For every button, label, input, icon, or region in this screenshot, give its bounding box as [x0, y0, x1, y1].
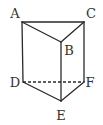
edge-de — [23, 82, 61, 101]
vertex-label-e: E — [56, 108, 66, 123]
triangular-prism-diagram: A B C D E F — [0, 0, 103, 125]
vertex-label-c: C — [86, 6, 96, 21]
vertex-label-d: D — [10, 75, 20, 90]
edge-ad — [22, 22, 23, 82]
vertex-label-a: A — [9, 6, 20, 21]
edge-ef — [61, 82, 84, 101]
edge-ab — [22, 22, 61, 42]
edge-bc — [61, 22, 84, 42]
vertex-label-f: F — [85, 75, 94, 90]
vertex-label-b: B — [64, 43, 74, 58]
prism-edges — [22, 22, 84, 101]
